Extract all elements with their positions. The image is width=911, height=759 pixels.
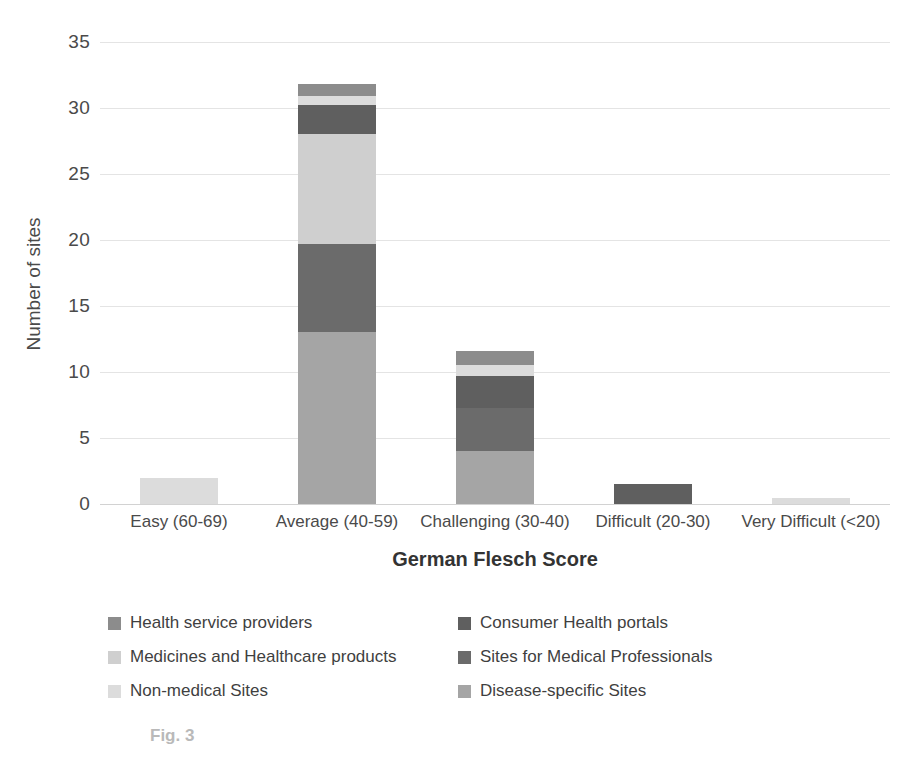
bar-segment[interactable] <box>456 408 534 452</box>
stacked-bar[interactable] <box>298 84 376 504</box>
bar-slot <box>100 42 258 504</box>
legend-item[interactable]: Health service providers <box>108 613 458 633</box>
bar-slot <box>258 42 416 504</box>
bar-slot <box>416 42 574 504</box>
bar-segment[interactable] <box>614 484 692 504</box>
y-axis-tick-label: 25 <box>68 163 90 185</box>
x-axis-tick-label: Challenging (30-40) <box>420 512 569 532</box>
bar-segment[interactable] <box>772 498 850 504</box>
y-axis-tick-label: 10 <box>68 361 90 383</box>
bar-segment[interactable] <box>140 478 218 504</box>
legend-label: Disease-specific Sites <box>480 681 646 701</box>
y-axis-tick-label: 20 <box>68 229 90 251</box>
chart-legend: Health service providersConsumer Health … <box>108 606 808 708</box>
y-axis-tick-labels: 05101520253035 <box>40 42 90 504</box>
bar-segment[interactable] <box>456 376 534 408</box>
x-axis-tick-label: Very Difficult (<20) <box>741 512 880 532</box>
y-axis-tick-label: 30 <box>68 97 90 119</box>
legend-swatch-icon <box>458 651 471 664</box>
legend-label: Sites for Medical Professionals <box>480 647 712 667</box>
x-axis-tick-label: Average (40-59) <box>276 512 399 532</box>
legend-item[interactable]: Disease-specific Sites <box>458 681 808 701</box>
y-axis-tick-label: 35 <box>68 31 90 53</box>
y-axis-tick-label: 0 <box>79 493 90 515</box>
bar-segment[interactable] <box>298 134 376 244</box>
legend-swatch-icon <box>108 685 121 698</box>
stacked-bar[interactable] <box>456 351 534 504</box>
bar-slot <box>732 42 890 504</box>
figure-caption: Fig. 3 <box>150 726 194 746</box>
x-axis-tick-label: Difficult (20-30) <box>596 512 711 532</box>
bar-segment[interactable] <box>456 451 534 504</box>
legend-item[interactable]: Medicines and Healthcare products <box>108 647 458 667</box>
legend-label: Health service providers <box>130 613 312 633</box>
legend-label: Medicines and Healthcare products <box>130 647 396 667</box>
legend-swatch-icon <box>458 685 471 698</box>
bar-segment[interactable] <box>456 351 534 366</box>
legend-swatch-icon <box>458 617 471 630</box>
legend-item[interactable]: Non-medical Sites <box>108 681 458 701</box>
bar-segment[interactable] <box>298 105 376 134</box>
y-axis-tick-label: 5 <box>79 427 90 449</box>
legend-item[interactable]: Consumer Health portals <box>458 613 808 633</box>
stacked-bar[interactable] <box>614 484 692 504</box>
y-axis-tick-label: 15 <box>68 295 90 317</box>
chart-figure: Number of sites 05101520253035 Easy (60-… <box>0 0 911 759</box>
stacked-bar[interactable] <box>772 498 850 504</box>
gridline <box>100 504 890 505</box>
bar-segment[interactable] <box>298 84 376 96</box>
legend-item[interactable]: Sites for Medical Professionals <box>458 647 808 667</box>
legend-label: Consumer Health portals <box>480 613 668 633</box>
plot-area <box>100 42 890 504</box>
bar-segment[interactable] <box>456 365 534 376</box>
legend-swatch-icon <box>108 617 121 630</box>
x-axis-tick-labels: Easy (60-69)Average (40-59)Challenging (… <box>100 512 890 542</box>
legend-swatch-icon <box>108 651 121 664</box>
legend-label: Non-medical Sites <box>130 681 268 701</box>
bar-segment[interactable] <box>298 96 376 105</box>
bar-segment[interactable] <box>298 332 376 504</box>
stacked-bar[interactable] <box>140 478 218 504</box>
x-axis-title: German Flesch Score <box>100 548 890 571</box>
bar-slot <box>574 42 732 504</box>
bar-segment[interactable] <box>298 244 376 332</box>
x-axis-tick-label: Easy (60-69) <box>130 512 227 532</box>
